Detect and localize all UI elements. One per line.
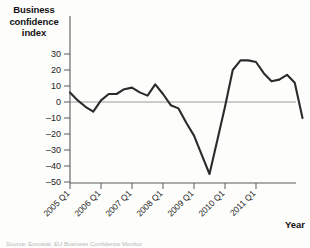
figure-caption: Source: Eurostat, EU Business Confidence… — [6, 241, 304, 248]
x-tick-label: 2008 Q1 — [134, 188, 164, 218]
y-tick-label: –40 — [46, 161, 61, 171]
x-axis-title: Year — [285, 219, 305, 230]
y-tick-label: –20 — [46, 129, 61, 139]
x-tick-label: 2006 Q1 — [72, 188, 102, 218]
data-series-line — [70, 60, 303, 174]
y-tick-label: 10 — [51, 81, 61, 91]
y-tick-label: 20 — [51, 65, 61, 75]
y-tick-group — [64, 54, 70, 182]
y-tick-label: –10 — [46, 113, 61, 123]
x-tick-label: 2010 Q1 — [196, 188, 226, 218]
x-tick-label: 2007 Q1 — [103, 188, 133, 218]
x-tick-label: 2011 Q1 — [228, 188, 258, 218]
x-tick-group — [70, 183, 256, 189]
x-tick-label: 2005 Q1 — [41, 188, 71, 218]
chart-figure: Business confidence index 30 20 10 0 –10… — [0, 0, 310, 248]
y-tick-label: 30 — [51, 49, 61, 59]
x-tick-label-group: 2005 Q1 2006 Q1 2007 Q1 2008 Q1 2009 Q1 … — [41, 188, 257, 218]
x-tick-label: 2009 Q1 — [165, 188, 195, 218]
y-tick-label: –30 — [46, 145, 61, 155]
y-tick-label: 0 — [56, 97, 61, 107]
y-tick-label: –50 — [46, 177, 61, 187]
chart-plot-area: 30 20 10 0 –10 –20 –30 –40 –50 2005 Q1 2… — [0, 0, 310, 248]
